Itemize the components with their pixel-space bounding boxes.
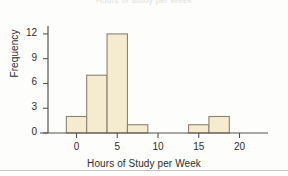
histogram-bar <box>127 125 147 133</box>
x-tick-label: 15 <box>188 141 210 152</box>
y-tick-label: 9 <box>17 52 37 63</box>
histogram-bar <box>209 116 229 133</box>
x-tick-label: 5 <box>106 141 128 152</box>
x-tick-label: 0 <box>66 141 88 152</box>
x-tick-label: 10 <box>147 141 169 152</box>
y-tick-label: 6 <box>17 76 37 87</box>
x-tick-label: 20 <box>228 141 250 152</box>
y-tick-label: 3 <box>17 101 37 112</box>
histogram-bar <box>87 75 107 133</box>
histogram-bar <box>107 34 127 133</box>
y-tick-label: 12 <box>17 27 37 38</box>
x-axis-label: Hours of Study per Week <box>44 158 244 169</box>
y-tick-label: 0 <box>17 126 37 137</box>
scan-artifact-line <box>0 170 288 171</box>
histogram-bar <box>189 125 209 133</box>
histogram-figure: Hours of Study per Week Frequency Hours … <box>0 0 288 176</box>
histogram-bar <box>66 116 86 133</box>
